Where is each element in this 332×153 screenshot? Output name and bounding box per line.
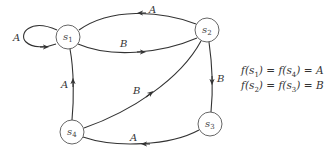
equation-2: f(s2) = f(s3) = B <box>241 79 324 94</box>
edge-label-s3-s4: A <box>129 132 137 143</box>
node-s4: s4 <box>60 120 84 144</box>
edge-label-s2-s1: A <box>148 4 156 15</box>
node-s2: s2 <box>195 18 219 42</box>
edge-arrowhead <box>146 93 151 97</box>
edge-s4-s2 <box>84 41 201 128</box>
edge-s1-s1-loop <box>24 26 57 47</box>
node-s1: s1 <box>56 25 80 49</box>
edge-s1-s2 <box>78 38 197 53</box>
edge-s2-s1 <box>79 13 196 30</box>
edge-label-s1-s2: B <box>119 38 127 49</box>
node-s3: s3 <box>198 112 222 136</box>
edge-label-s1-s1: A <box>12 32 20 43</box>
edge-label-s4-s2: B <box>132 85 140 96</box>
edge-s3-s4 <box>83 130 199 144</box>
edge-label-s4-s1: A <box>60 79 68 90</box>
edge-label-s2-s3: B <box>216 73 224 84</box>
equation-1: f(s1) = f(s4) = A <box>241 64 324 79</box>
